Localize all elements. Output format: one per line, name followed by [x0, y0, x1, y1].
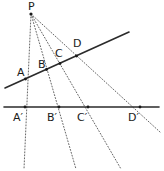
label-C: C — [55, 48, 63, 59]
label-C-prime: C′ — [77, 112, 87, 123]
label-B: B — [38, 59, 46, 70]
point-C-prime-dot — [87, 106, 90, 109]
label-A: A — [17, 67, 25, 78]
label-A-prime: A′ — [13, 112, 23, 123]
geometry-figure: P A B C D A′ B′ C′ D′ — [0, 0, 164, 171]
ray-P-B-line — [31, 14, 76, 169]
label-P: P — [28, 1, 35, 12]
point-A-prime-dot — [24, 106, 27, 109]
label-B-prime: B′ — [47, 112, 57, 123]
figure-canvas — [0, 0, 164, 171]
projection-rays — [24, 14, 160, 169]
point-B-prime-dot — [58, 106, 61, 109]
label-D-prime: D′ — [128, 112, 139, 123]
point-C-dot — [59, 62, 62, 65]
label-D: D — [73, 38, 81, 49]
slanted-line — [5, 32, 129, 88]
point-D-prime-dot — [139, 106, 142, 109]
point-D-dot — [75, 55, 78, 58]
ray-P-A-line — [24, 14, 31, 169]
